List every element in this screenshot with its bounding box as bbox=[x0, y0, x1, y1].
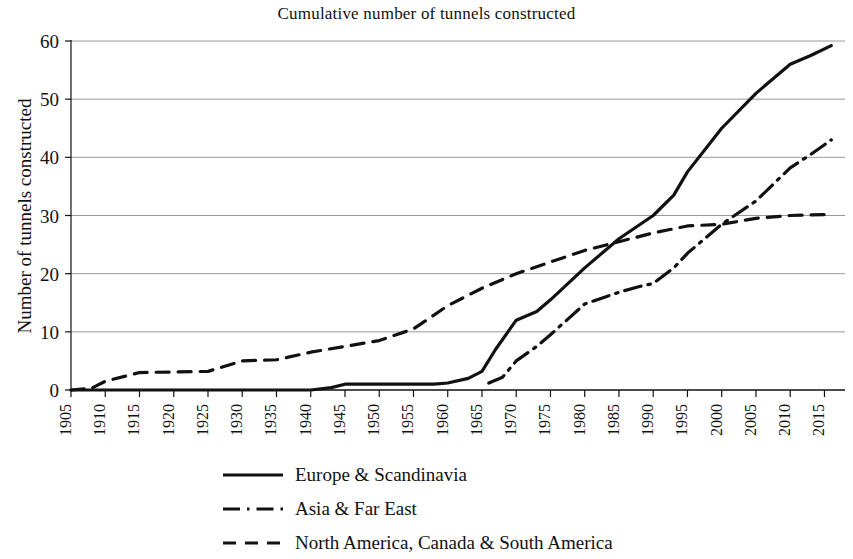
x-tick-label: 2010 bbox=[776, 404, 793, 436]
x-tick-label: 1935 bbox=[262, 404, 279, 436]
x-tick-label: 1925 bbox=[194, 404, 211, 436]
x-tick-label: 1985 bbox=[605, 404, 622, 436]
x-tick-label: 1960 bbox=[434, 404, 451, 436]
x-tick-label: 2015 bbox=[810, 404, 827, 436]
legend-label: Asia & Far East bbox=[295, 498, 417, 520]
x-axis-tick-labels: 1905191019151920192519301935194019451950… bbox=[57, 404, 827, 436]
legend-swatch-dashed bbox=[222, 536, 284, 550]
legend-swatch-dashdot bbox=[222, 502, 284, 516]
x-tick-label: 1945 bbox=[331, 404, 348, 436]
x-tick-label: 1910 bbox=[91, 404, 108, 436]
x-tick-label: 2005 bbox=[742, 404, 759, 436]
x-tick-label: 1965 bbox=[468, 404, 485, 436]
y-axis-tick-labels: 0102030405060 bbox=[40, 31, 59, 401]
gridlines bbox=[71, 41, 845, 390]
x-tick-label: 1975 bbox=[536, 404, 553, 436]
legend-label: Europe & Scandinavia bbox=[295, 464, 467, 486]
legend-label: North America, Canada & South America bbox=[295, 532, 613, 554]
y-axis-ticks bbox=[65, 41, 71, 390]
y-tick-label: 20 bbox=[40, 264, 59, 285]
chart-page: Cumulative number of tunnels constructed… bbox=[0, 0, 853, 559]
y-tick-label: 30 bbox=[40, 206, 59, 227]
x-tick-label: 1970 bbox=[502, 404, 519, 436]
legend-item[interactable]: Asia & Far East bbox=[0, 492, 853, 526]
data-series bbox=[71, 46, 831, 390]
series-line bbox=[71, 214, 831, 390]
y-tick-label: 10 bbox=[40, 322, 59, 343]
x-tick-label: 1915 bbox=[125, 404, 142, 436]
x-tick-label: 1990 bbox=[639, 404, 656, 436]
x-tick-label: 1980 bbox=[571, 404, 588, 436]
series-line bbox=[489, 140, 831, 383]
x-tick-label: 1950 bbox=[365, 404, 382, 436]
y-tick-label: 40 bbox=[40, 147, 59, 168]
x-tick-label: 1940 bbox=[297, 404, 314, 436]
legend-item[interactable]: North America, Canada & South America bbox=[0, 526, 853, 559]
x-tick-label: 1920 bbox=[160, 404, 177, 436]
x-tick-label: 1930 bbox=[228, 404, 245, 436]
x-tick-label: 2000 bbox=[708, 404, 725, 436]
y-tick-label: 60 bbox=[40, 31, 59, 52]
legend-swatch-solid bbox=[222, 468, 284, 482]
y-tick-label: 50 bbox=[40, 89, 59, 110]
series-line bbox=[71, 46, 831, 390]
chart-legend: Europe & ScandinaviaAsia & Far EastNorth… bbox=[0, 458, 853, 559]
x-tick-label: 1995 bbox=[673, 404, 690, 436]
y-tick-label: 0 bbox=[50, 380, 60, 401]
x-tick-label: 1905 bbox=[57, 404, 74, 436]
line-chart: 1905191019151920192519301935194019451950… bbox=[0, 0, 853, 455]
x-tick-label: 1955 bbox=[399, 404, 416, 436]
legend-item[interactable]: Europe & Scandinavia bbox=[0, 458, 853, 492]
